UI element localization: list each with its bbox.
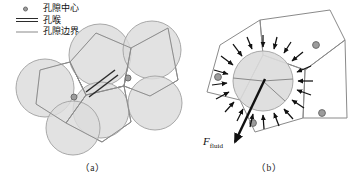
legend-label-pore-boundary: 孔隙边界 bbox=[40, 26, 79, 38]
fluid-force-arrow bbox=[292, 100, 304, 108]
fluid-force-arrow bbox=[212, 83, 227, 85]
fluid-force-arrow bbox=[274, 113, 279, 126]
fluid-force-arrow bbox=[214, 70, 228, 74]
fluid-force-arrow bbox=[284, 42, 291, 53]
panel-b: Ffluid （b） bbox=[185, 0, 353, 176]
fluid-force-arrow bbox=[292, 52, 303, 61]
pore-center-dot bbox=[319, 110, 326, 117]
fluid-force-arrow bbox=[221, 56, 233, 65]
figure-container: 孔隙中心 孔喉 孔隙边界 （a） bbox=[0, 0, 353, 176]
grain-circle bbox=[46, 101, 100, 155]
grain-circle-group bbox=[16, 21, 182, 155]
pore-center-dot bbox=[125, 75, 131, 81]
legend-label-pore-throat: 孔喉 bbox=[40, 15, 61, 27]
grain-circle bbox=[128, 76, 182, 130]
fluid-force-arrow bbox=[274, 37, 277, 49]
panel-b-caption: （b） bbox=[185, 160, 353, 174]
force-label-subscript: fluid bbox=[210, 142, 224, 150]
fluid-force-arrow bbox=[237, 109, 243, 121]
single-line-marker-icon bbox=[14, 26, 40, 38]
pore-center-dot bbox=[215, 74, 222, 81]
fluid-force-arrow bbox=[263, 115, 264, 129]
legend-label-pore-center: 孔隙中心 bbox=[40, 3, 79, 15]
legend-item-pore-throat: 孔喉 bbox=[14, 15, 79, 27]
fluid-force-arrow bbox=[247, 37, 252, 49]
legend: 孔隙中心 孔喉 孔隙边界 bbox=[14, 3, 79, 38]
fluid-force-arrow bbox=[297, 66, 311, 72]
legend-item-pore-boundary: 孔隙边界 bbox=[14, 26, 79, 38]
legend-item-pore-center: 孔隙中心 bbox=[14, 3, 79, 15]
dot-marker-icon bbox=[14, 3, 40, 15]
fluid-force-arrow bbox=[216, 92, 229, 99]
force-label: Ffluid bbox=[202, 135, 223, 150]
pore-center-dot bbox=[71, 94, 77, 100]
pore-center-dot bbox=[313, 42, 320, 49]
fluid-force-arrow bbox=[225, 102, 234, 112]
fluid-force-arrow bbox=[284, 109, 293, 119]
fluid-force-arrow bbox=[233, 44, 242, 56]
panel-b-drawing: Ffluid bbox=[185, 0, 353, 160]
panel-a: 孔隙中心 孔喉 孔隙边界 （a） bbox=[0, 0, 185, 176]
double-line-marker-icon bbox=[14, 15, 40, 27]
panel-a-caption: （a） bbox=[0, 160, 185, 174]
pore-boundary-polygon bbox=[303, 40, 347, 118]
